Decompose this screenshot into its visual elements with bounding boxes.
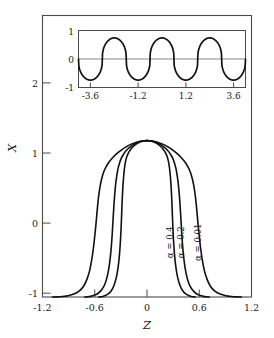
x-tick-label-1.2: 1.2 <box>244 302 259 313</box>
x-tick-label-0.6: 0.6 <box>192 302 207 313</box>
inset-y-tick-label-0: 0 <box>68 55 74 65</box>
y-tick-label-2: 2 <box>32 78 38 89</box>
y-tick-label-1: 1 <box>32 148 38 159</box>
inset-y-tick-labels: 1 0 -1 <box>65 27 74 93</box>
main-x-tick-labels: -1.2 -0.6 0 0.6 1.2 <box>33 302 259 313</box>
y-tick-label-minus1: -1 <box>29 288 38 299</box>
curve-label-alpha-0.2: α = 0.2 <box>176 226 186 258</box>
inset-x-ticks <box>90 83 233 88</box>
x-tick-label-0: 0 <box>144 302 150 313</box>
inset-y-tick-label-1: 1 <box>68 27 74 37</box>
x-axis-title: Z <box>142 318 152 332</box>
curve-label-alpha-0.01: α = 0.01 <box>193 223 203 261</box>
main-y-ticks <box>43 83 51 293</box>
inset-x-tick-labels: -3.6 -1.2 1.2 3.6 <box>82 91 241 101</box>
inset-plot: 1 0 -1 -3.6 -1.2 1.2 3.6 <box>65 27 245 102</box>
figure-container: 2 1 0 -1 -1.2 -0.6 0 0.6 1.2 X Z α = 0.4… <box>0 0 274 338</box>
x-tick-label-minus0.6: -0.6 <box>86 302 104 313</box>
inset-y-tick-label-minus1: -1 <box>65 83 74 93</box>
inset-x-tick-label-3.6: 3.6 <box>226 91 241 101</box>
curve-label-alpha-0.4: α = 0.4 <box>165 226 175 259</box>
y-axis-title: X <box>5 143 19 153</box>
y-tick-label-0: 0 <box>32 218 38 229</box>
main-curve-group <box>53 141 242 297</box>
curve-label-group: α = 0.4α = 0.2α = 0.01 <box>165 223 203 261</box>
curve-alpha-0.01 <box>53 141 242 297</box>
inset-x-tick-label-1.2: 1.2 <box>179 91 193 101</box>
inset-x-tick-label-minus3.6: -3.6 <box>82 91 100 101</box>
main-y-tick-labels: 2 1 0 -1 <box>29 78 38 299</box>
plot-svg: 2 1 0 -1 -1.2 -0.6 0 0.6 1.2 X Z α = 0.4… <box>0 0 274 338</box>
curve-alpha-0.2 <box>85 141 210 297</box>
x-tick-label-minus1.2: -1.2 <box>33 302 51 313</box>
inset-x-tick-label-minus1.2: -1.2 <box>129 91 146 101</box>
